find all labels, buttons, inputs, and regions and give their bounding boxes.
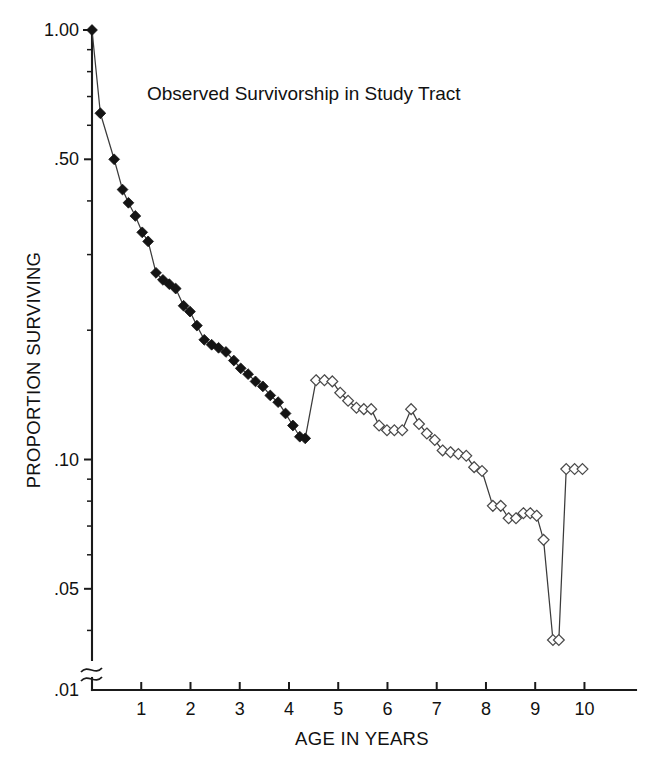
data-point-marker bbox=[117, 184, 128, 195]
data-point-marker bbox=[130, 211, 141, 222]
survivorship-chart: 1.00.50.10.05.0112345678910 Observed Sur… bbox=[0, 0, 648, 760]
figure-container: 1.00.50.10.05.0112345678910 Observed Sur… bbox=[0, 0, 648, 760]
data-point-marker bbox=[406, 404, 417, 415]
data-point-marker bbox=[137, 227, 148, 238]
data-point-marker bbox=[95, 108, 106, 119]
x-tick-label: 5 bbox=[333, 699, 343, 719]
x-tick-label: 1 bbox=[136, 699, 146, 719]
x-tick-label: 4 bbox=[284, 699, 294, 719]
y-tick-label: 1.00 bbox=[44, 20, 79, 40]
data-point-marker bbox=[366, 404, 377, 415]
data-point-marker bbox=[495, 500, 506, 511]
y-tick-label: .50 bbox=[54, 149, 79, 169]
y-tick-label: .01 bbox=[54, 680, 79, 700]
chart-title: Observed Survivorship in Study Tract bbox=[147, 83, 461, 104]
labels-layer: Observed Survivorship in Study Tract AGE… bbox=[23, 83, 461, 749]
data-point-marker bbox=[143, 236, 154, 247]
x-axis-title: AGE IN YEARS bbox=[295, 728, 429, 749]
data-point-marker bbox=[123, 197, 134, 208]
y-tick-label: .05 bbox=[54, 579, 79, 599]
series-layer bbox=[87, 25, 588, 646]
x-tick-label: 9 bbox=[530, 699, 540, 719]
y-tick-label: .10 bbox=[54, 450, 79, 470]
x-tick-label: 7 bbox=[432, 699, 442, 719]
data-point-marker bbox=[397, 425, 408, 436]
data-point-marker bbox=[538, 534, 549, 545]
data-point-marker bbox=[288, 420, 299, 431]
data-point-marker bbox=[87, 25, 98, 36]
data-point-marker bbox=[109, 154, 120, 165]
data-point-marker bbox=[577, 464, 588, 475]
x-tick-label: 2 bbox=[185, 699, 195, 719]
data-point-marker bbox=[280, 408, 291, 419]
x-tick-label: 10 bbox=[574, 699, 594, 719]
data-point-marker bbox=[191, 320, 202, 331]
y-axis-title: PROPORTION SURVIVING bbox=[23, 252, 44, 489]
axes-layer: 1.00.50.10.05.0112345678910 bbox=[44, 20, 636, 719]
x-tick-label: 8 bbox=[481, 699, 491, 719]
x-tick-label: 6 bbox=[382, 699, 392, 719]
data-point-marker bbox=[327, 376, 338, 387]
x-tick-label: 3 bbox=[235, 699, 245, 719]
